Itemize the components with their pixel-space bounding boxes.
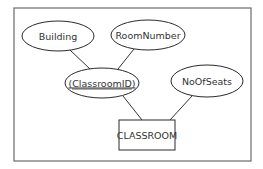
attribute-no-of-seats: NoOfSeats [171,65,243,97]
er-diagram: Building RoomNumber (ClassroomID) NoOfSe… [0,0,263,169]
entity-classroom: CLASSROOM [117,120,177,150]
attribute-classroom-id: (ClassroomID) [65,68,139,98]
attribute-room-number-label: RoomNumber [115,30,180,41]
attribute-no-of-seats-label: NoOfSeats [182,76,232,87]
attribute-room-number: RoomNumber [111,20,185,50]
attribute-building: Building [22,21,94,51]
attribute-building-label: Building [39,31,78,42]
attribute-classroom-id-label: (ClassroomID) [68,78,135,89]
entity-classroom-label: CLASSROOM [117,130,177,141]
